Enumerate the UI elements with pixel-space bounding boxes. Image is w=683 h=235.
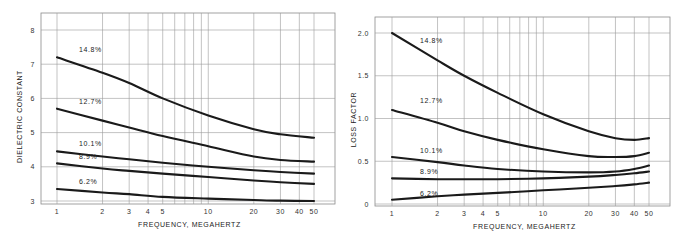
dielectric-constant-chart: 345678123451020304050FREQUENCY, MEGAHERT… — [16, 13, 335, 229]
x-tick-label: 4 — [146, 208, 150, 215]
x-tick-label: 2 — [100, 208, 104, 215]
x-tick-label: 5 — [161, 208, 165, 215]
y-tick-label: 0 — [365, 201, 369, 208]
x-gridlines — [392, 17, 649, 206]
x-tick-label: 40 — [630, 210, 639, 217]
y-tick-label: 0.5 — [358, 158, 369, 165]
series-label: 8.9% — [79, 153, 97, 160]
x-axis-label: FREQUENCY, MEGAHERTZ — [138, 221, 241, 229]
series-label: 6.2% — [79, 178, 97, 185]
x-tick-label: 5 — [496, 210, 500, 217]
x-tick-label: 3 — [462, 210, 466, 217]
y-tick-label: 6 — [31, 95, 35, 102]
x-tick-label: 1 — [390, 210, 394, 217]
y-tick-label: 7 — [31, 61, 35, 68]
y-tick-label: 5 — [31, 129, 35, 136]
series-label: 14.8% — [79, 46, 102, 53]
x-tick-label: 30 — [276, 208, 285, 215]
x-tick-label: 20 — [584, 210, 593, 217]
x-tick-label: 2 — [435, 210, 439, 217]
x-tick-label: 50 — [310, 208, 319, 215]
series-label: 10.1% — [420, 147, 443, 154]
loss-factor-chart: 00.51.01.52.0123451020304050FREQUENCY, M… — [350, 17, 670, 231]
series-label: 10.1% — [79, 140, 102, 147]
x-tick-label: 4 — [481, 210, 485, 217]
x-tick-label: 10 — [539, 210, 548, 217]
x-axis-label: FREQUENCY, MEGAHERTZ — [473, 223, 576, 231]
plot-frame — [375, 17, 670, 206]
x-tick-label: 10 — [204, 208, 213, 215]
y-tick-label: 3 — [31, 198, 35, 205]
y-axis-label: DIELECTRIC CONSTANT — [16, 70, 23, 163]
x-tick-label: 30 — [611, 210, 620, 217]
series-curve — [392, 33, 649, 140]
x-tick-label: 1 — [55, 208, 59, 215]
series-label: 12.7% — [420, 97, 443, 104]
y-tick-label: 1.5 — [358, 72, 369, 79]
x-tick-label: 20 — [249, 208, 258, 215]
y-tick-label: 1.0 — [358, 115, 369, 122]
x-tick-label: 50 — [645, 210, 654, 217]
series-label: 8.9% — [420, 168, 438, 175]
x-tick-label: 40 — [295, 208, 304, 215]
y-axis-label: LOSS FACTOR — [350, 92, 357, 147]
series-curve — [57, 189, 314, 201]
y-tick-label: 4 — [31, 163, 35, 170]
x-tick-label: 3 — [127, 208, 131, 215]
chart-canvas: 345678123451020304050FREQUENCY, MEGAHERT… — [0, 0, 683, 235]
series-label: 14.8% — [420, 37, 443, 44]
series-label: 6.2% — [420, 190, 438, 197]
y-tick-label: 2.0 — [358, 30, 369, 37]
y-tick-label: 8 — [31, 27, 35, 34]
series-label: 12.7% — [79, 98, 102, 105]
